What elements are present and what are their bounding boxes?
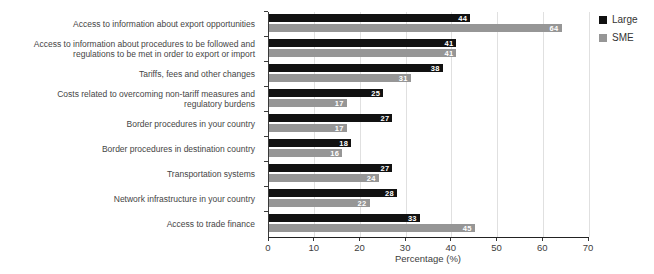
x-axis-tickmark [450, 238, 451, 241]
bar-value-label: 18 [339, 139, 351, 148]
bar-group: 2724 [269, 162, 589, 187]
bar-value-label: 38 [431, 64, 443, 73]
x-tick-label: 20 [354, 242, 365, 253]
bar-large: 41 [269, 39, 456, 47]
x-tick-label: 60 [537, 242, 548, 253]
bar-sme: 22 [269, 199, 370, 207]
bar-value-label: 64 [550, 24, 562, 33]
bar-rows: 446441413831251727171816272428223345 [269, 12, 589, 237]
bar-value-label: 16 [330, 149, 342, 158]
legend-swatch-large [599, 16, 607, 24]
bar-value-label: 17 [335, 99, 347, 108]
bar-large: 28 [269, 189, 397, 197]
y-axis-tick [264, 11, 268, 12]
bar-value-label: 44 [458, 14, 470, 23]
bar-value-label: 27 [380, 114, 392, 123]
bar-value-label: 22 [358, 199, 370, 208]
category-label: Access to trade finance [0, 212, 262, 237]
bar-sme: 41 [269, 49, 456, 57]
category-label: Transportation systems [0, 162, 262, 187]
bar-sme: 64 [269, 24, 562, 32]
category-labels-column: Access to information about export oppor… [0, 12, 262, 237]
bar-group: 3831 [269, 62, 589, 87]
category-label: Border procedures in destination country [0, 137, 262, 162]
bar-value-label: 17 [335, 124, 347, 133]
y-axis-tick [264, 161, 268, 162]
bar-value-label: 45 [463, 224, 475, 233]
x-axis-tickmark [542, 238, 543, 241]
bar-group: 4141 [269, 37, 589, 62]
bar-chart-figure: Access to information about export oppor… [0, 0, 654, 274]
bar-large: 27 [269, 114, 392, 122]
y-axis-tick [264, 86, 268, 87]
x-axis-tickmark [496, 238, 497, 241]
bar-value-label: 41 [444, 49, 456, 58]
bar-large: 33 [269, 214, 420, 222]
x-tick-label: 10 [308, 242, 319, 253]
bar-large: 25 [269, 89, 383, 97]
category-label: Border procedures in your country [0, 112, 262, 137]
x-tick-label: 40 [446, 242, 457, 253]
bar-large: 38 [269, 64, 443, 72]
bar-large: 18 [269, 139, 351, 147]
x-axis-tickmark [359, 238, 360, 241]
bar-large: 27 [269, 164, 392, 172]
y-axis-tick [264, 111, 268, 112]
bar-group: 2822 [269, 187, 589, 212]
x-axis-tickmark [268, 238, 269, 241]
bar-value-label: 27 [380, 164, 392, 173]
x-axis-tickmark [588, 238, 589, 241]
y-axis-tick [264, 61, 268, 62]
bar-value-label: 41 [444, 39, 456, 48]
bar-sme: 17 [269, 99, 347, 107]
legend-label-sme: SME [612, 32, 634, 43]
category-label: Access to information about procedures t… [0, 37, 262, 62]
bar-value-label: 31 [399, 74, 411, 83]
legend-item-sme: SME [599, 32, 638, 43]
y-axis-tick [264, 211, 268, 212]
x-tick-label: 30 [400, 242, 411, 253]
y-axis-tick [264, 136, 268, 137]
bar-sme: 45 [269, 224, 475, 232]
y-axis-tick [264, 36, 268, 37]
bar-value-label: 33 [408, 214, 420, 223]
legend-swatch-sme [599, 34, 607, 42]
bar-group: 4464 [269, 12, 589, 37]
bar-large: 44 [269, 14, 470, 22]
legend-label-large: Large [612, 14, 638, 25]
bar-sme: 24 [269, 174, 379, 182]
category-label: Costs related to overcoming non-tariff m… [0, 87, 262, 112]
legend: Large SME [599, 14, 638, 50]
bar-value-label: 25 [371, 89, 383, 98]
category-label: Tariffs, fees and other changes [0, 62, 262, 87]
category-label: Access to information about export oppor… [0, 12, 262, 37]
x-tick-label: 70 [583, 242, 594, 253]
bar-value-label: 28 [385, 189, 397, 198]
legend-item-large: Large [599, 14, 638, 25]
x-tick-label: 50 [491, 242, 502, 253]
x-tick-label: 0 [265, 242, 270, 253]
x-axis-title: Percentage (%) [268, 253, 588, 264]
bar-group: 3345 [269, 212, 589, 237]
bar-group: 1816 [269, 137, 589, 162]
x-axis-tickmark [405, 238, 406, 241]
y-axis-tick [264, 186, 268, 187]
plot-area: 446441413831251727171816272428223345 [268, 12, 589, 238]
bar-value-label: 24 [367, 174, 379, 183]
category-label: Network infrastructure in your country [0, 187, 262, 212]
x-axis-tickmark [313, 238, 314, 241]
bar-sme: 16 [269, 149, 342, 157]
bar-sme: 31 [269, 74, 411, 82]
bar-group: 2517 [269, 87, 589, 112]
bar-group: 2717 [269, 112, 589, 137]
bar-sme: 17 [269, 124, 347, 132]
